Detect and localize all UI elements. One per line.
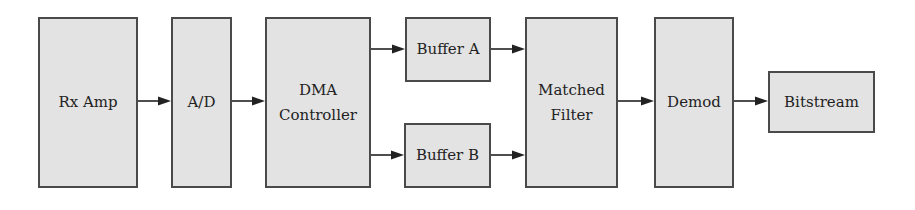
block-buffer-b: Buffer B bbox=[404, 123, 491, 188]
block-matched-filter: Matched Filter bbox=[525, 17, 618, 188]
block-buffer-a: Buffer A bbox=[405, 17, 491, 82]
block-label: Demod bbox=[667, 90, 721, 115]
arrow-buf_b-to-mf bbox=[491, 151, 525, 160]
block-a-d: A/D bbox=[171, 17, 232, 188]
arrow-buf_a-to-mf bbox=[491, 45, 525, 54]
block-label: A/D bbox=[188, 90, 216, 115]
block-rx-amp: Rx Amp bbox=[38, 17, 138, 188]
block-label: Bitstream bbox=[784, 90, 859, 115]
block-label: Rx Amp bbox=[58, 90, 117, 115]
arrowhead-icon bbox=[641, 97, 654, 106]
block-bitstream: Bitstream bbox=[768, 71, 875, 133]
block-label: Buffer B bbox=[416, 143, 479, 168]
block-label: Buffer A bbox=[417, 37, 480, 62]
block-dma-controller: DMA Controller bbox=[265, 17, 371, 188]
block-label: Matched Filter bbox=[538, 78, 605, 128]
arrowhead-icon bbox=[252, 97, 265, 106]
arrowhead-icon bbox=[755, 97, 768, 106]
arrow-rx_amp-to-ad bbox=[138, 97, 171, 106]
arrowhead-icon bbox=[512, 151, 525, 160]
block-demod: Demod bbox=[654, 17, 734, 188]
arrowhead-icon bbox=[391, 151, 404, 160]
arrowhead-icon bbox=[158, 97, 171, 106]
arrow-ad-to-dma bbox=[232, 97, 265, 106]
arrowhead-icon bbox=[392, 45, 405, 54]
arrow-dma-to-buf_b bbox=[371, 151, 404, 160]
block-label: DMA Controller bbox=[279, 78, 357, 128]
arrow-mf-to-demod bbox=[618, 97, 654, 106]
arrow-demod-to-bits bbox=[734, 97, 768, 106]
arrowhead-icon bbox=[512, 45, 525, 54]
arrow-dma-to-buf_a bbox=[371, 45, 405, 54]
